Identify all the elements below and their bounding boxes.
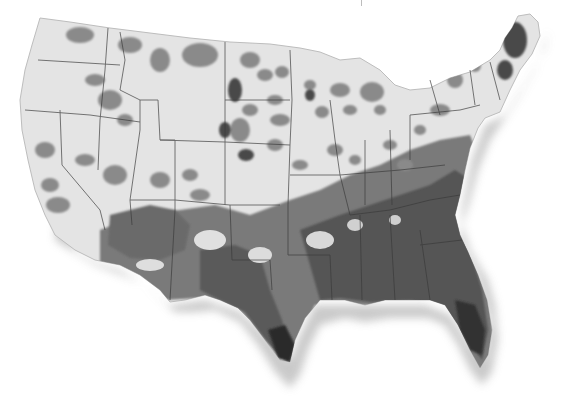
us-relief-map-photo [0,0,569,406]
